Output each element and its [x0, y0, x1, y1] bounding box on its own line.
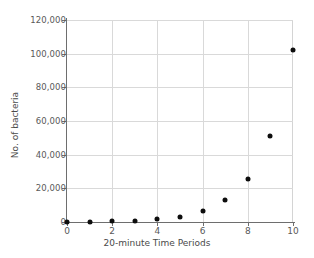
x-axis-line	[65, 222, 295, 223]
bacteria-growth-scatter-chart: 020,00040,00060,00080,000100,000120,000 …	[0, 0, 314, 258]
x-tick-label: 2	[109, 226, 115, 236]
data-point	[132, 218, 137, 223]
gridline-vertical	[157, 20, 158, 222]
data-point	[291, 47, 296, 52]
gridline-horizontal	[67, 121, 293, 122]
gridline-vertical	[112, 20, 113, 222]
data-point	[223, 198, 228, 203]
data-point	[155, 217, 160, 222]
data-point	[245, 176, 250, 181]
gridline-horizontal	[67, 87, 293, 88]
data-point	[200, 209, 205, 214]
x-tick-label: 8	[245, 226, 251, 236]
gridline-horizontal	[67, 188, 293, 189]
x-tick-label: 10	[287, 226, 298, 236]
data-point	[178, 214, 183, 219]
x-tick-label: 6	[200, 226, 206, 236]
y-tick-label: 0	[6, 217, 66, 227]
y-axis-title: No. of bacteria	[10, 60, 20, 190]
gridline-vertical	[248, 20, 249, 222]
data-point	[268, 133, 273, 138]
data-point	[65, 219, 70, 224]
gridline-horizontal	[67, 20, 293, 21]
gridline-horizontal	[67, 54, 293, 55]
data-point	[87, 219, 92, 224]
x-tick-label: 4	[155, 226, 161, 236]
x-axis-title: 20-minute Time Periods	[0, 238, 314, 248]
data-point	[110, 219, 115, 224]
x-tick-label: 0	[64, 226, 70, 236]
y-tick-label: 120,000	[6, 15, 66, 25]
gridline-vertical	[203, 20, 204, 222]
gridline-horizontal	[67, 155, 293, 156]
y-tick-label: 100,000	[6, 49, 66, 59]
